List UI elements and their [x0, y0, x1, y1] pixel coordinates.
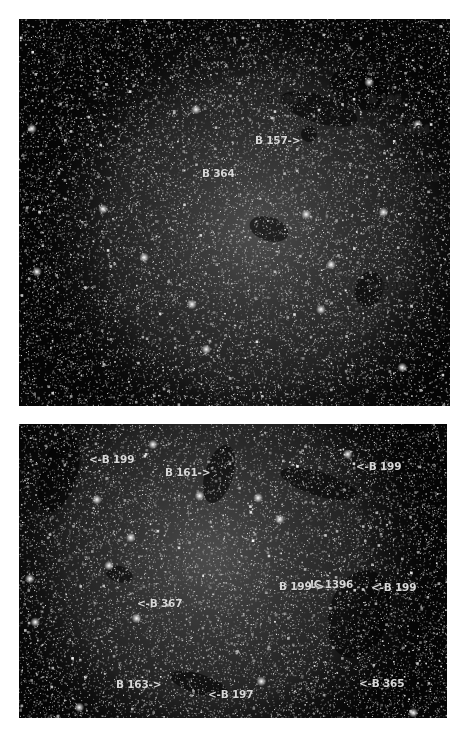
object-label: <-B 365 — [359, 677, 404, 689]
object-label: <-B 367 — [137, 597, 182, 609]
bottom-star-field-image: <-B 199B 161-><-B 199IC 1396<-B 367B 199… — [19, 424, 447, 718]
object-label: <-B 197 — [208, 688, 253, 700]
object-label: <-B 199 — [89, 453, 134, 465]
object-label: B 194 — [397, 123, 430, 135]
object-label: B 157-> — [255, 134, 300, 146]
object-label: B 161-> — [165, 466, 210, 478]
object-label: <-B 199 — [371, 581, 416, 593]
object-label: B 364 — [202, 167, 235, 179]
top-star-field-image: B 196B 195B 157->B 194B 364<-B 193<-B 19… — [19, 19, 450, 406]
object-label: B 195 — [369, 93, 402, 105]
object-label: B 196 — [266, 93, 299, 105]
object-label: <-B 199 — [356, 460, 401, 472]
object-label: B 199-> — [279, 580, 324, 592]
object-label: <-B 192 — [369, 280, 414, 292]
object-label: B 163-> — [116, 678, 161, 690]
object-label: <-B 193 — [394, 171, 439, 183]
star-field-canvas — [19, 19, 450, 406]
